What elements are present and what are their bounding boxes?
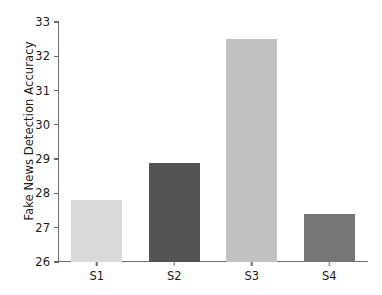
- x-tick-S3: S3: [244, 262, 259, 283]
- y-tick-label: 28: [35, 186, 50, 200]
- bar-S2: [149, 163, 200, 262]
- y-tick-label: 32: [35, 49, 50, 63]
- y-tick-30: 30: [35, 118, 58, 132]
- y-tick-mark: [54, 124, 58, 125]
- x-tick-label: S3: [244, 269, 259, 283]
- y-tick-28: 28: [35, 186, 58, 200]
- x-tick-mark: [96, 262, 97, 266]
- y-tick-26: 26: [35, 255, 58, 269]
- y-tick-mark: [54, 227, 58, 228]
- y-tick-31: 31: [35, 84, 58, 98]
- bar-chart-figure: Fake News Detection Accuracy 26272829303…: [0, 0, 382, 295]
- y-tick-29: 29: [35, 152, 58, 166]
- x-tick-mark: [174, 262, 175, 266]
- y-tick-27: 27: [35, 221, 58, 235]
- bar-S1: [71, 200, 122, 262]
- bar-S4: [304, 214, 355, 262]
- plot-area: 2627282930313233 S1S2S3S4: [58, 22, 368, 262]
- x-tick-mark: [329, 262, 330, 266]
- y-tick-mark: [54, 56, 58, 57]
- y-tick-33: 33: [35, 15, 58, 29]
- y-tick-mark: [54, 90, 58, 91]
- x-tick-label: S1: [89, 269, 104, 283]
- x-tick-S4: S4: [322, 262, 337, 283]
- x-tick-S1: S1: [89, 262, 104, 283]
- y-tick-mark: [54, 21, 58, 22]
- y-tick-label: 26: [35, 255, 50, 269]
- y-tick-label: 33: [35, 15, 50, 29]
- x-tick-mark: [251, 262, 252, 266]
- y-tick-mark: [54, 193, 58, 194]
- y-tick-label: 27: [35, 221, 50, 235]
- y-tick-label: 30: [35, 118, 50, 132]
- x-tick-S2: S2: [167, 262, 182, 283]
- y-tick-32: 32: [35, 49, 58, 63]
- y-tick-label: 29: [35, 152, 50, 166]
- x-tick-label: S2: [167, 269, 182, 283]
- y-tick-mark: [54, 261, 58, 262]
- y-tick-mark: [54, 158, 58, 159]
- bar-S3: [226, 39, 277, 262]
- x-tick-label: S4: [322, 269, 337, 283]
- y-tick-label: 31: [35, 84, 50, 98]
